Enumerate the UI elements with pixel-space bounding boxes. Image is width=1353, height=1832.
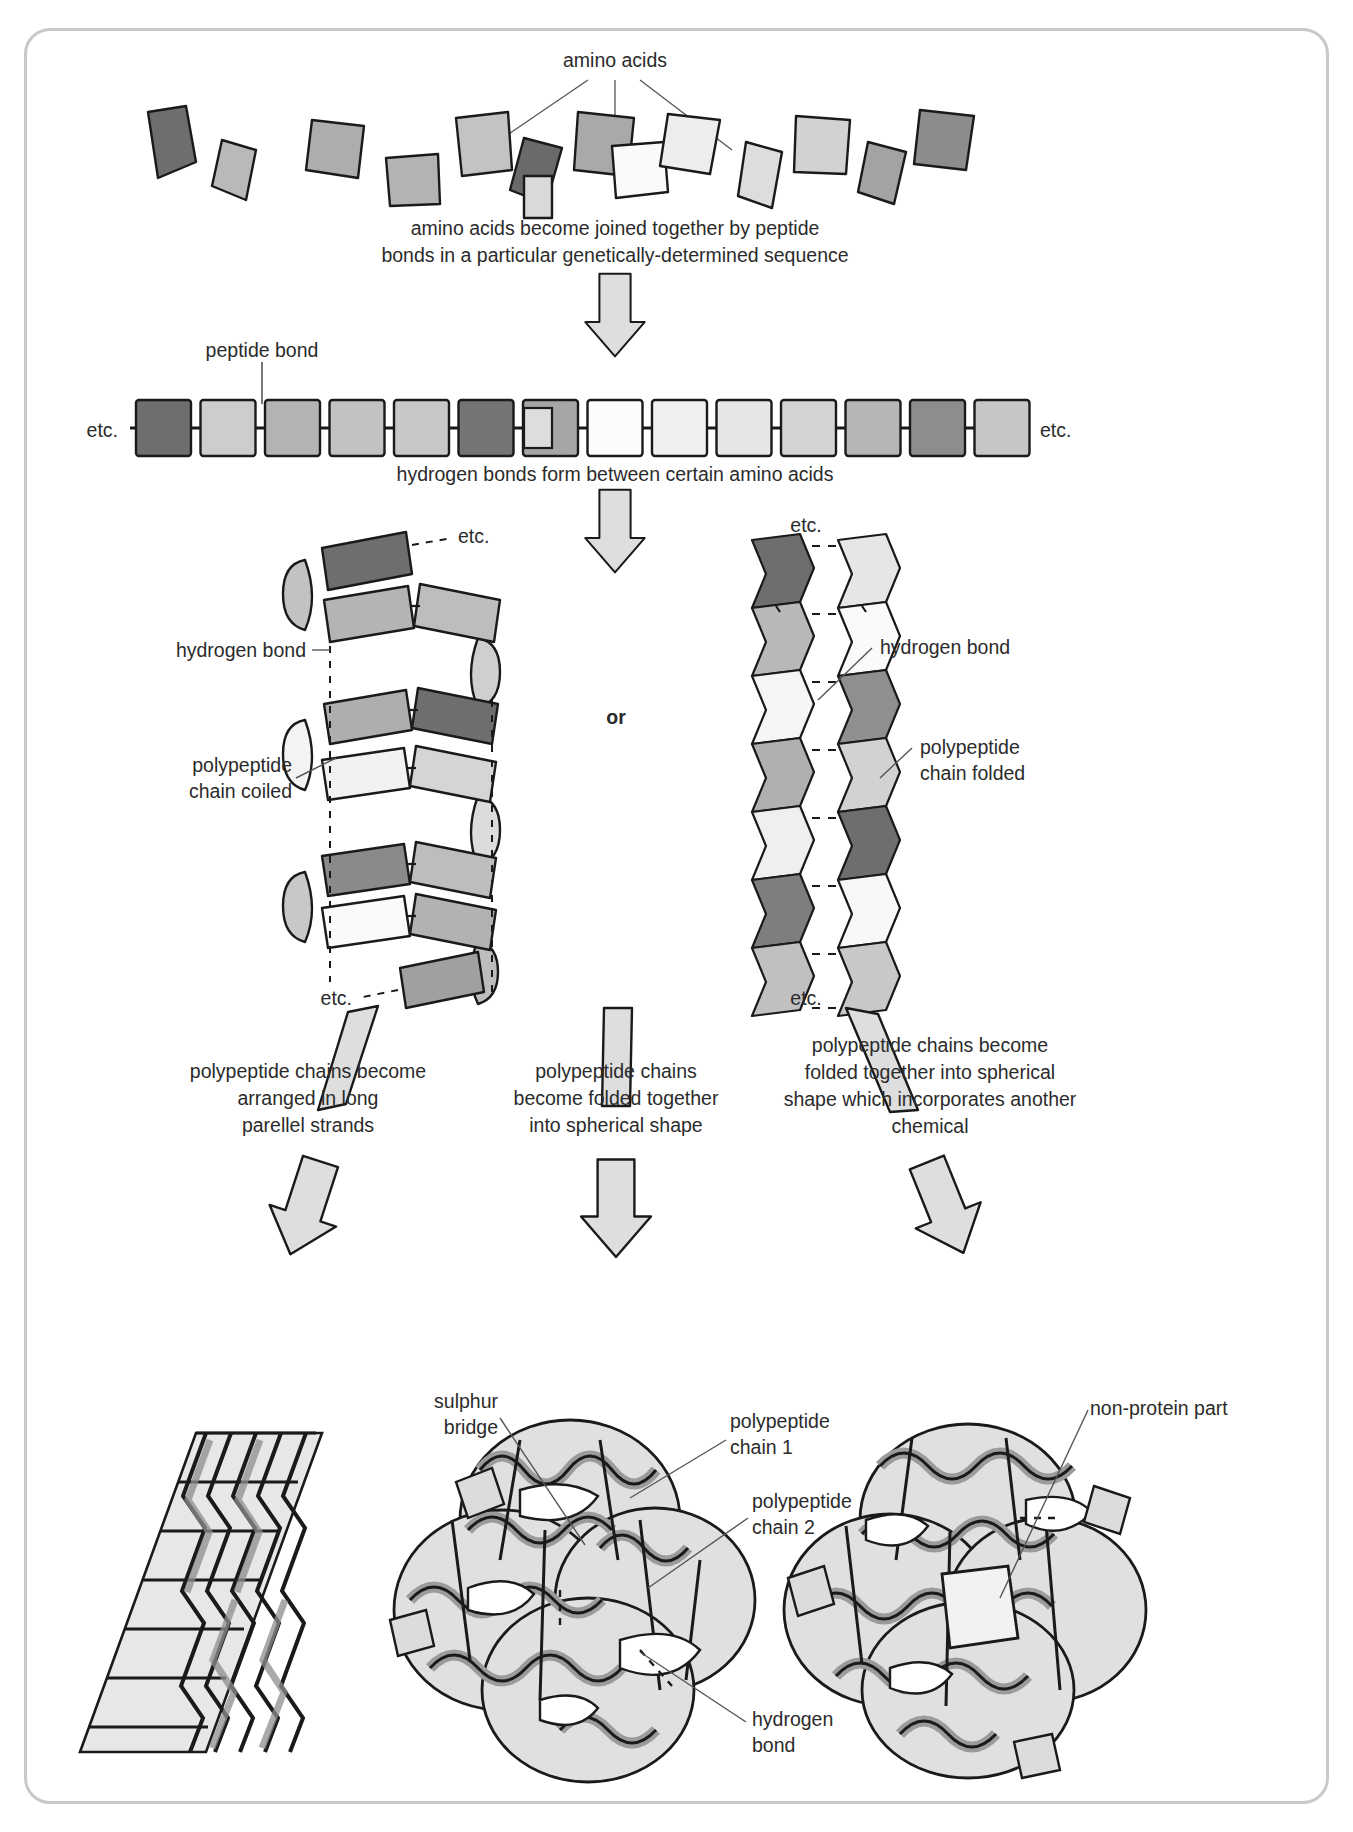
chain-etc-left: etc.	[87, 418, 118, 442]
or-label: or	[606, 705, 626, 729]
chain-etc-right: etc.	[1040, 418, 1071, 442]
polypeptide-chain-2-label: polypeptide chain 2	[752, 1488, 852, 1540]
sheet-etc-bottom: etc.	[790, 986, 821, 1010]
branch-caption-left: polypeptide chains become arranged in lo…	[190, 1058, 426, 1139]
sheet-hydrogen-bond-label: hydrogen bond	[880, 635, 1010, 659]
diagram-page: amino acids amino acids become joined to…	[0, 0, 1353, 1832]
diagram-frame	[24, 28, 1329, 1804]
branch-caption-right: polypeptide chains become folded togethe…	[784, 1032, 1077, 1140]
non-protein-part-label: non-protein part	[1090, 1396, 1228, 1420]
helix-polypeptide-label: polypeptide chain coiled	[189, 752, 292, 804]
sheet-polypeptide-label: polypeptide chain folded	[920, 734, 1025, 786]
helix-etc-bottom: etc.	[321, 986, 352, 1010]
globular-hydrogen-bond-label: hydrogen bond	[752, 1706, 833, 1758]
peptide-bond-label: peptide bond	[206, 338, 319, 362]
step-1-caption: amino acids become joined together by pe…	[381, 215, 848, 269]
helix-hydrogen-bond-label: hydrogen bond	[176, 638, 306, 662]
sulphur-bridge-label: sulphur bridge	[434, 1388, 498, 1440]
step-2-caption: hydrogen bonds form between certain amin…	[397, 462, 834, 486]
branch-caption-middle: polypeptide chains become folded togethe…	[514, 1058, 719, 1139]
sheet-etc-top: etc.	[790, 513, 821, 537]
amino-acids-label: amino acids	[563, 48, 667, 72]
helix-etc-top: etc.	[458, 524, 489, 548]
polypeptide-chain-1-label: polypeptide chain 1	[730, 1408, 830, 1460]
